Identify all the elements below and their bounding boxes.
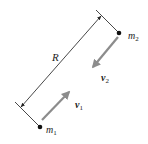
extension-line-upper <box>96 10 120 34</box>
velocity-label-v1: v1 <box>75 99 83 112</box>
velocity-arrow-v2 <box>93 37 118 67</box>
extension-line-lower <box>15 102 40 127</box>
mass-label-m1: m1 <box>46 124 57 137</box>
mass-dot-m2 <box>117 31 122 36</box>
mass-dot-m1 <box>38 125 43 130</box>
mass-label-m2: m2 <box>128 30 139 43</box>
separation-dimension-line <box>21 16 101 107</box>
velocity-arrow-v1 <box>42 92 69 120</box>
velocity-label-v2: v2 <box>101 72 109 85</box>
two-body-diagram: R m2 m1 v2 v1 <box>0 0 148 144</box>
separation-label: R <box>51 51 59 63</box>
